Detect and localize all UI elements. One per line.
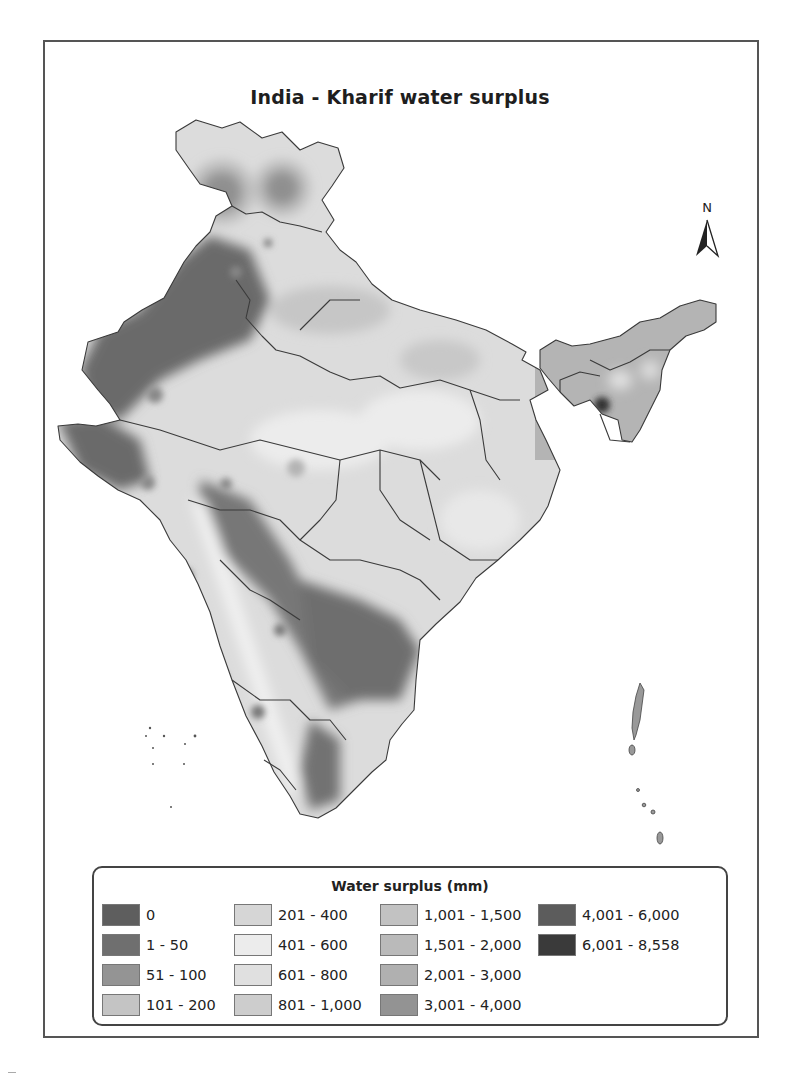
legend-swatch — [102, 994, 140, 1016]
legend-item: 401 - 600 — [234, 932, 348, 958]
legend-item: 0 — [102, 902, 155, 928]
legend-swatch — [102, 934, 140, 956]
legend-label: 3,001 - 4,000 — [424, 997, 521, 1013]
legend-item: 51 - 100 — [102, 962, 207, 988]
legend-label: 6,001 - 8,558 — [582, 937, 679, 953]
legend-swatch — [234, 964, 272, 986]
legend-swatch — [380, 994, 418, 1016]
legend-title: Water surplus (mm) — [94, 878, 726, 894]
legend: Water surplus (mm) 0 1 - 50 51 - 100 101… — [92, 866, 728, 1026]
legend-item: 201 - 400 — [234, 902, 348, 928]
legend-item: 3,001 - 4,000 — [380, 992, 521, 1018]
legend-label: 4,001 - 6,000 — [582, 907, 679, 923]
legend-item: 1,501 - 2,000 — [380, 932, 521, 958]
legend-label: 0 — [146, 907, 155, 923]
north-arrow-icon — [692, 216, 722, 260]
legend-item: 801 - 1,000 — [234, 992, 362, 1018]
legend-label: 1,001 - 1,500 — [424, 907, 521, 923]
north-arrow: N — [692, 200, 722, 260]
legend-swatch — [380, 904, 418, 926]
legend-label: 51 - 100 — [146, 967, 207, 983]
legend-item: 101 - 200 — [102, 992, 216, 1018]
legend-item: 6,001 - 8,558 — [538, 932, 679, 958]
legend-label: 801 - 1,000 — [278, 997, 362, 1013]
legend-label: 101 - 200 — [146, 997, 216, 1013]
legend-item: 601 - 800 — [234, 962, 348, 988]
legend-label: 1 - 50 — [146, 937, 188, 953]
legend-label: 1,501 - 2,000 — [424, 937, 521, 953]
legend-item: 2,001 - 3,000 — [380, 962, 521, 988]
legend-item: 4,001 - 6,000 — [538, 902, 679, 928]
legend-swatch — [102, 964, 140, 986]
legend-swatch — [234, 934, 272, 956]
legend-label: 601 - 800 — [278, 967, 348, 983]
legend-label: 2,001 - 3,000 — [424, 967, 521, 983]
legend-item: 1 - 50 — [102, 932, 188, 958]
legend-swatch — [234, 994, 272, 1016]
legend-swatch — [538, 904, 576, 926]
legend-label: 201 - 400 — [278, 907, 348, 923]
legend-item: 1,001 - 1,500 — [380, 902, 521, 928]
legend-swatch — [234, 904, 272, 926]
legend-swatch — [538, 934, 576, 956]
corner-mark — [8, 1072, 16, 1079]
legend-swatch — [380, 934, 418, 956]
legend-label: 401 - 600 — [278, 937, 348, 953]
north-label: N — [692, 200, 722, 215]
legend-swatch — [380, 964, 418, 986]
legend-swatch — [102, 904, 140, 926]
